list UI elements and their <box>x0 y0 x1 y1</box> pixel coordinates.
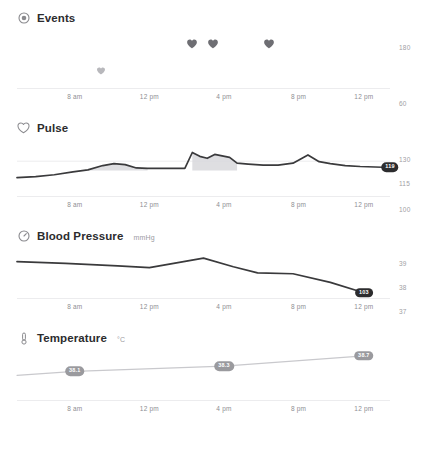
events-plot <box>17 28 390 88</box>
xaxis-tick-label: 4 pm <box>216 405 231 412</box>
xaxis-tick-label: 8 pm <box>291 93 306 100</box>
panel-title-blood-pressure: Blood Pressure <box>37 230 123 242</box>
xaxis-tick-label: 8 pm <box>291 201 306 208</box>
xaxis-tick-label: 12 pm <box>354 201 373 208</box>
value-badge[interactable]: 38.7 <box>354 351 374 361</box>
panel-header-events: Events <box>0 8 433 28</box>
xaxis-tick-label: 4 pm <box>216 201 231 208</box>
record-circle-icon <box>17 12 30 25</box>
panel-temperature: Temperature °C 38.138.338.7 393837 8 am1… <box>0 314 433 416</box>
panel-events: Events 8 am12 pm4 pm8 pm12 pm <box>0 0 433 104</box>
xaxis-tick-label: 12 pm <box>140 93 159 100</box>
xaxis-tick-label: 8 am <box>67 303 82 310</box>
chart-line <box>17 258 364 293</box>
panel-header-temperature: Temperature °C <box>0 328 433 348</box>
xaxis-tick-label: 8 pm <box>291 405 306 412</box>
pulse-plot: 119 <box>17 138 390 196</box>
panel-title-temperature: Temperature <box>37 332 107 344</box>
xaxis-blood-pressure: 8 am12 pm4 pm8 pm12 pm <box>17 298 390 314</box>
xaxis-tick-label: 4 pm <box>216 303 231 310</box>
blood_pressure-chart-svg <box>17 246 390 298</box>
xaxis-tick-label: 12 pm <box>354 93 373 100</box>
value-badge[interactable]: 119 <box>381 163 398 173</box>
yaxis-tick-label: 60 <box>399 100 407 107</box>
xaxis-tick-label: 12 pm <box>140 303 159 310</box>
yaxis-tick-label: 115 <box>399 180 410 187</box>
panel-unit-blood-pressure: mmHg <box>133 234 154 241</box>
xaxis-events: 8 am12 pm4 pm8 pm12 pm <box>17 88 390 104</box>
health-dashboard: Events 8 am12 pm4 pm8 pm12 pm Pulse 119 … <box>0 0 433 465</box>
gauge-icon <box>17 230 30 243</box>
event-heart-icon[interactable] <box>96 67 105 76</box>
temperature-plot: 38.138.338.7 <box>17 348 390 400</box>
blood-pressure-plot: 103 <box>17 246 390 298</box>
xaxis-tick-label: 8 am <box>67 93 82 100</box>
panel-header-blood-pressure: Blood Pressure mmHg <box>0 226 433 246</box>
xaxis-tick-label: 12 pm <box>140 201 159 208</box>
xaxis-temperature: 8 am12 pm4 pm8 pm12 pm <box>17 400 390 416</box>
xaxis-tick-label: 12 pm <box>354 303 373 310</box>
yaxis-tick-label: 38 <box>399 284 407 291</box>
value-badge[interactable]: 103 <box>355 288 373 298</box>
heart-outline-icon <box>17 122 30 135</box>
event-heart-icon[interactable] <box>207 38 218 49</box>
xaxis-tick-label: 8 pm <box>291 303 306 310</box>
panel-blood-pressure: Blood Pressure mmHg 103 130115100 8 am12… <box>0 212 433 314</box>
yaxis-tick-label: 37 <box>399 308 407 315</box>
xaxis-tick-label: 12 pm <box>140 405 159 412</box>
panel-pulse: Pulse 119 18060 8 am12 pm4 pm8 pm12 pm <box>0 104 433 212</box>
yaxis-tick-label: 180 <box>399 44 410 51</box>
xaxis-tick-label: 12 pm <box>354 405 373 412</box>
yaxis-tick-label: 39 <box>399 260 407 267</box>
pulse-chart-svg <box>17 138 390 196</box>
thermometer-icon <box>17 332 30 345</box>
panel-title-events: Events <box>37 12 75 24</box>
yaxis-tick-label: 130 <box>399 156 410 163</box>
xaxis-tick-label: 8 am <box>67 201 82 208</box>
value-badge[interactable]: 38.1 <box>65 367 85 377</box>
panel-unit-temperature: °C <box>117 336 125 343</box>
xaxis-tick-label: 8 am <box>67 405 82 412</box>
xaxis-tick-label: 4 pm <box>216 93 231 100</box>
xaxis-pulse: 8 am12 pm4 pm8 pm12 pm <box>17 196 390 212</box>
event-heart-icon[interactable] <box>263 38 274 49</box>
panel-header-pulse: Pulse <box>0 118 433 138</box>
event-heart-icon[interactable] <box>187 38 198 49</box>
value-badge[interactable]: 38.3 <box>214 361 234 371</box>
yaxis-tick-label: 100 <box>399 206 410 213</box>
panel-title-pulse: Pulse <box>37 122 68 134</box>
